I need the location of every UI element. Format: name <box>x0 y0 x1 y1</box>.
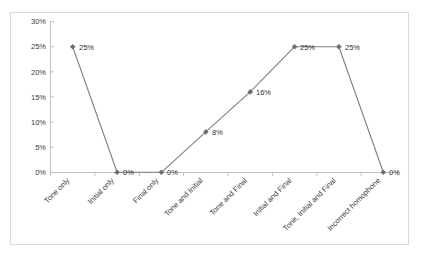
data-point-marker <box>114 170 120 176</box>
y-tick-label: 25% <box>31 42 46 51</box>
x-category-label: Initial and Final <box>251 176 293 218</box>
data-point-marker <box>70 44 76 50</box>
data-value-label: 25% <box>300 43 315 52</box>
data-value-label: 25% <box>345 43 360 52</box>
x-category-label: Tone and Initial <box>162 176 204 218</box>
x-category-label: Initial only <box>86 176 116 206</box>
x-category-label: Tone only <box>42 176 71 205</box>
x-axis-ticks <box>51 173 399 177</box>
data-value-label: 0% <box>389 168 400 177</box>
x-axis-category-labels: Tone only Initial only Final only Tone a… <box>42 176 382 233</box>
x-category-label: Tone and Final <box>208 176 249 217</box>
x-category-label: Final only <box>131 176 160 205</box>
chart-container: 30% 25% 20% 15% 10% 5% 0% 25% 0% 0% 8% <box>0 0 421 263</box>
y-tick-label: 0% <box>35 168 46 177</box>
data-point-markers <box>70 44 386 175</box>
data-series-line <box>73 47 384 173</box>
data-value-label: 0% <box>167 168 178 177</box>
y-tick-label: 10% <box>31 118 46 127</box>
data-value-labels: 25% 0% 0% 8% 16% 25% 25% 0% <box>79 43 400 178</box>
data-value-label: 25% <box>79 43 94 52</box>
data-value-label: 16% <box>256 88 271 97</box>
y-axis-ticks <box>51 22 55 173</box>
data-value-label: 8% <box>212 128 223 137</box>
data-point-marker <box>336 44 342 50</box>
y-tick-label: 5% <box>35 143 46 152</box>
y-tick-label: 15% <box>31 93 46 102</box>
y-tick-label: 30% <box>31 17 46 26</box>
y-axis-tick-labels: 30% 25% 20% 15% 10% 5% 0% <box>31 17 46 177</box>
y-tick-label: 20% <box>31 68 46 77</box>
chart-plot: 30% 25% 20% 15% 10% 5% 0% 25% 0% 0% 8% <box>0 0 421 263</box>
data-value-label: 0% <box>123 168 134 177</box>
data-point-marker <box>381 170 387 176</box>
